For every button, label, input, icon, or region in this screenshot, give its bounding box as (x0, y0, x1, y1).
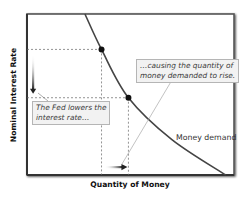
interest-rate-arrow-shaft (32, 54, 34, 89)
money-demand-chart (0, 0, 248, 198)
money-demand-curve-label: Money demand (176, 133, 236, 142)
quantity-rises-annotation: …causing the quantity of money demanded … (136, 59, 239, 83)
fed-annotation-line2: interest rate… (36, 113, 106, 123)
equilibrium-point-initial (99, 46, 105, 52)
fed-annotation-line1: The Fed lowers the (36, 103, 106, 113)
y-axis-label: Nominal Interest Rate (9, 48, 18, 142)
equilibrium-point-new (125, 95, 131, 101)
plot-frame (27, 14, 234, 175)
quantity-arrow-shaft (105, 166, 123, 168)
x-axis-label: Quantity of Money (90, 180, 169, 189)
causing-annotation-line1: …causing the quantity of (140, 61, 235, 71)
fed-lowers-rate-annotation: The Fed lowers the interest rate… (32, 101, 110, 125)
causing-annotation-line2: money demanded to rise. (140, 71, 235, 81)
